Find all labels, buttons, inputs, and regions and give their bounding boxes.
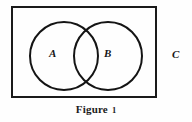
set-label-b: B [104,48,111,59]
caption-number: 1 [108,105,116,115]
figure-container: A B C Figure1 [0,0,192,122]
set-label-c: C [172,49,179,60]
set-label-a: A [49,48,56,59]
figure-caption: Figure1 [0,103,192,117]
caption-word: Figure [76,103,108,115]
